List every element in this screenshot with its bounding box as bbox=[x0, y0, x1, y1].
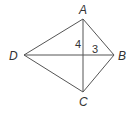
side-BC bbox=[83, 55, 114, 92]
length-label-3: 3 bbox=[92, 43, 98, 55]
length-label-4: 4 bbox=[75, 38, 81, 50]
kite-figure: A B C D 4 3 bbox=[0, 0, 134, 114]
vertex-label-a: A bbox=[78, 3, 87, 17]
side-AB bbox=[83, 19, 114, 55]
vertex-label-c: C bbox=[79, 95, 88, 109]
vertex-label-d: D bbox=[9, 49, 18, 63]
kite-diagram: A B C D 4 3 bbox=[0, 0, 134, 114]
vertex-label-b: B bbox=[118, 49, 126, 63]
side-CD bbox=[24, 55, 83, 92]
